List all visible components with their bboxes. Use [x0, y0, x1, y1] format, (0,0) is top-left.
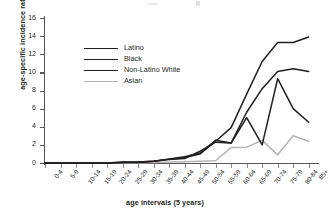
cropped-title-remnant — [0, 1, 330, 8]
legend-label: Latino — [124, 43, 144, 52]
legend-label: Non-Latino White — [124, 65, 180, 74]
legend-swatch-line — [84, 70, 118, 71]
x-tick-label: 25-29 — [133, 168, 148, 185]
x-tick-label: 40-44 — [179, 168, 194, 185]
legend-swatch-line — [84, 81, 118, 82]
y-tick-label: 2 — [14, 140, 36, 147]
x-tick — [262, 164, 263, 168]
y-tick-label: 8 — [14, 86, 36, 93]
x-tick-label: 10-14 — [86, 168, 101, 185]
x-tick — [154, 164, 155, 168]
x-tick-label: 55-59 — [226, 168, 241, 185]
y-tick-label: 16 — [14, 14, 36, 21]
x-tick-label: 30-34 — [148, 168, 163, 185]
x-tick-label: 75-79 — [288, 168, 303, 185]
x-tick — [123, 164, 124, 168]
series-line-black — [45, 79, 309, 163]
x-tick-label: 50-54 — [210, 168, 225, 185]
x-tick — [61, 164, 62, 168]
x-tick — [200, 164, 201, 168]
x-tick — [293, 164, 294, 168]
x-tick-label: 45-49 — [195, 168, 210, 185]
x-tick-label: 35-39 — [164, 168, 179, 185]
x-tick-label: 85+ — [317, 168, 329, 181]
title-fragment-right — [196, 1, 200, 6]
x-tick-label: 70-74 — [272, 168, 287, 185]
y-tick-label: 6 — [14, 104, 36, 111]
legend-label: Black — [124, 54, 142, 63]
x-tick — [216, 164, 217, 168]
x-tick-label: 0-4 — [53, 168, 64, 179]
x-tick — [169, 164, 170, 168]
x-tick-label: 65-69 — [257, 168, 272, 185]
x-tick-label: 5-9 — [68, 168, 79, 179]
legend-label: Asian — [124, 76, 142, 85]
x-tick — [185, 164, 186, 168]
x-tick — [76, 164, 77, 168]
y-tick-label: 10 — [14, 68, 36, 75]
x-tick-label: 15-19 — [102, 168, 117, 185]
x-tick — [231, 164, 232, 168]
series-line-latino — [45, 37, 309, 163]
legend-swatch-line — [84, 48, 118, 49]
x-tick — [138, 164, 139, 168]
x-axis-title: age intervals (5 years) — [0, 198, 330, 207]
x-tick — [92, 164, 93, 168]
x-tick-label: 20-24 — [117, 168, 132, 185]
y-tick-label: 12 — [14, 50, 36, 57]
x-tick — [45, 164, 46, 168]
legend-swatch-line — [84, 59, 118, 60]
plot-lines — [45, 18, 318, 163]
chart-figure: age-specific incidence rate age interval… — [0, 0, 330, 219]
x-tick — [247, 164, 248, 168]
x-tick-label: 60-64 — [241, 168, 256, 185]
title-fragment-left — [148, 3, 157, 5]
x-tick — [309, 164, 310, 168]
y-tick-label: 4 — [14, 122, 36, 129]
y-tick-label: 0 — [14, 159, 36, 166]
x-tick — [278, 164, 279, 168]
y-tick-label: 14 — [14, 32, 36, 39]
x-tick — [107, 164, 108, 168]
